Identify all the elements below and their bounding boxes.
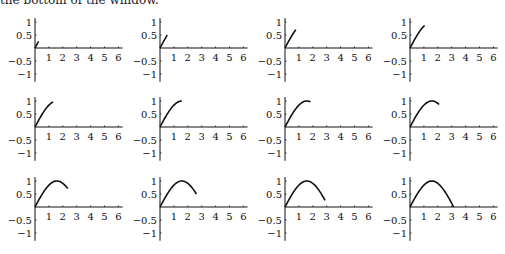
y-tick-label: 1: [276, 176, 282, 187]
y-tick-label: −0.5: [383, 135, 407, 146]
x-tick-label: 4: [337, 131, 343, 142]
y-tick-label: 0.5: [266, 109, 282, 120]
x-tick-label: 2: [310, 52, 316, 63]
y-tick-label: 1: [401, 17, 407, 28]
x-tick-label: 6: [240, 131, 246, 142]
x-tick-label: 6: [240, 52, 246, 63]
y-tick-label: 1: [26, 96, 32, 107]
y-tick-label: −0.5: [133, 135, 157, 146]
plot-panel: 12345610.5−0.5−1: [383, 96, 498, 161]
x-tick-label: 3: [199, 52, 205, 63]
x-tick-label: 3: [449, 131, 455, 142]
x-tick-label: 4: [337, 52, 343, 63]
x-tick-label: 3: [74, 211, 80, 222]
x-tick-label: 1: [46, 211, 52, 222]
x-tick-label: 2: [435, 52, 441, 63]
x-tick-label: 3: [74, 52, 80, 63]
plot-panel: 12345610.5−0.5−1: [383, 17, 498, 82]
plot-panel: 12345610.5−0.5−1: [8, 176, 123, 241]
sine-curve: [160, 35, 167, 48]
x-tick-label: 4: [212, 52, 218, 63]
x-tick-label: 4: [462, 211, 468, 222]
y-tick-label: −0.5: [258, 215, 282, 226]
x-tick-label: 5: [351, 52, 357, 63]
x-tick-label: 4: [462, 131, 468, 142]
y-tick-label: 1: [276, 96, 282, 107]
x-tick-label: 5: [476, 211, 482, 222]
x-tick-label: 3: [324, 52, 330, 63]
plot-panel: 12345610.5−0.5−1: [133, 96, 248, 161]
y-tick-label: 1: [401, 176, 407, 187]
y-tick-label: −1: [392, 69, 407, 80]
plot-panel: 12345610.5−0.5−1: [8, 96, 123, 161]
y-tick-label: −0.5: [8, 56, 32, 67]
x-tick-label: 6: [365, 52, 371, 63]
x-tick-label: 4: [87, 131, 93, 142]
y-tick-label: 1: [26, 17, 32, 28]
x-tick-label: 3: [324, 211, 330, 222]
x-tick-label: 6: [115, 52, 121, 63]
plot-panel: 12345610.5−0.5−1: [258, 96, 373, 161]
plot-panel: 12345610.5−0.5−1: [133, 176, 248, 241]
x-tick-label: 1: [171, 211, 177, 222]
x-tick-label: 5: [476, 131, 482, 142]
y-tick-label: 0.5: [16, 109, 32, 120]
x-tick-label: 5: [101, 52, 107, 63]
x-tick-label: 1: [46, 52, 52, 63]
x-tick-label: 3: [199, 211, 205, 222]
x-tick-label: 5: [351, 131, 357, 142]
x-tick-label: 2: [185, 131, 191, 142]
y-tick-label: −1: [392, 228, 407, 239]
y-tick-label: 0.5: [391, 189, 407, 200]
x-tick-label: 5: [226, 211, 232, 222]
plot-panel: 12345610.5−0.5−1: [258, 176, 373, 241]
y-tick-label: −1: [267, 228, 282, 239]
y-tick-label: −0.5: [383, 56, 407, 67]
y-tick-label: 0.5: [391, 109, 407, 120]
x-tick-label: 3: [449, 211, 455, 222]
x-tick-label: 4: [212, 131, 218, 142]
x-tick-label: 1: [421, 211, 427, 222]
x-tick-label: 2: [310, 131, 316, 142]
y-tick-label: −1: [392, 148, 407, 159]
x-tick-label: 6: [365, 131, 371, 142]
x-tick-label: 3: [74, 131, 80, 142]
plot-grid: 12345610.5−0.5−112345610.5−0.5−112345610…: [0, 0, 505, 254]
y-tick-label: 0.5: [16, 30, 32, 41]
x-tick-label: 3: [324, 131, 330, 142]
y-tick-label: −0.5: [8, 135, 32, 146]
x-tick-label: 3: [449, 52, 455, 63]
y-tick-label: −0.5: [133, 56, 157, 67]
x-tick-label: 1: [46, 131, 52, 142]
x-tick-label: 6: [365, 211, 371, 222]
x-tick-label: 6: [490, 131, 496, 142]
x-tick-label: 6: [490, 211, 496, 222]
x-tick-label: 1: [296, 52, 302, 63]
x-tick-label: 4: [87, 52, 93, 63]
x-tick-label: 2: [60, 211, 66, 222]
x-tick-label: 1: [296, 131, 302, 142]
x-tick-label: 2: [435, 131, 441, 142]
x-tick-label: 4: [462, 52, 468, 63]
x-tick-label: 6: [240, 211, 246, 222]
sine-curve: [285, 181, 325, 207]
y-tick-label: 1: [26, 176, 32, 187]
sine-curve: [160, 181, 196, 207]
x-tick-label: 6: [115, 211, 121, 222]
plot-panel: 12345610.5−0.5−1: [258, 17, 373, 82]
x-tick-label: 6: [490, 52, 496, 63]
x-tick-label: 1: [171, 52, 177, 63]
x-tick-label: 3: [199, 131, 205, 142]
sine-curve: [285, 101, 310, 127]
y-tick-label: 0.5: [266, 189, 282, 200]
sine-curve: [160, 101, 182, 127]
y-tick-label: −0.5: [133, 215, 157, 226]
y-tick-label: −1: [142, 148, 157, 159]
x-tick-label: 2: [60, 131, 66, 142]
x-tick-label: 6: [115, 131, 121, 142]
plot-panel: 12345610.5−0.5−1: [8, 17, 123, 82]
x-tick-label: 2: [185, 52, 191, 63]
y-tick-label: −1: [17, 228, 32, 239]
y-tick-label: 1: [151, 96, 157, 107]
sine-curve: [35, 41, 39, 48]
